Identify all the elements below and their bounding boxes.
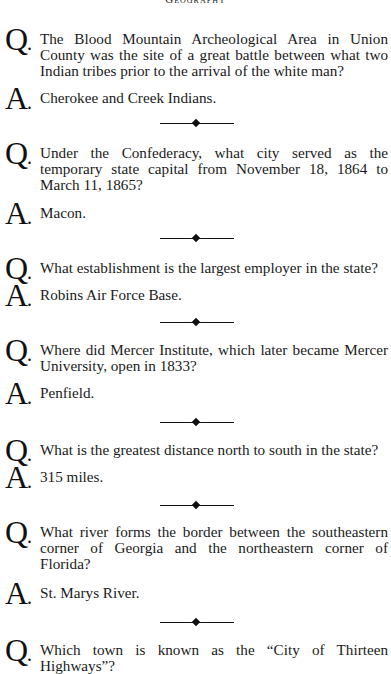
answer-marker: A. — [5, 578, 32, 612]
question-block: Q. Where did Mercer Institute, which lat… — [0, 342, 391, 374]
question-block: Q. The Blood Mountain Archeological Area… — [0, 31, 391, 79]
qa-question-2: Q. Under the Confederacy, what city serv… — [0, 145, 391, 193]
qa-answer-2: A. Macon. — [0, 205, 391, 221]
answer-text: 315 miles. — [40, 469, 388, 485]
qa-question-1: Q. The Blood Mountain Archeological Area… — [0, 31, 391, 79]
answer-block: A. Macon. — [0, 205, 391, 221]
question-block: Q. What is the greatest distance north t… — [0, 442, 391, 458]
diamond-separator — [160, 501, 234, 510]
question-text: What river forms the border between the … — [40, 524, 388, 572]
diamond-icon — [192, 501, 200, 509]
question-marker: Q. — [5, 24, 32, 58]
question-text: What establishment is the largest employ… — [40, 260, 388, 276]
question-marker: Q. — [5, 635, 32, 669]
question-marker: Q. — [5, 517, 32, 551]
answer-marker: A. — [5, 280, 32, 314]
qa-question-5: Q. What is the greatest distance north t… — [0, 442, 391, 458]
answer-text: Cherokee and Creek Indians. — [40, 90, 388, 106]
answer-block: A. Penfield. — [0, 385, 391, 401]
diamond-separator — [160, 418, 234, 427]
diamond-icon — [192, 318, 200, 326]
question-text: Under the Confederacy, what city served … — [40, 145, 388, 193]
running-head: Geography — [0, 0, 391, 5]
question-marker: Q. — [5, 335, 32, 369]
qa-answer-6: A. St. Marys River. — [0, 585, 391, 601]
diamond-icon — [192, 618, 200, 626]
diamond-icon — [192, 418, 200, 426]
qa-answer-3: A. Robins Air Force Base. — [0, 287, 391, 303]
diamond-icon — [192, 234, 200, 242]
question-marker: Q. — [5, 138, 32, 172]
diamond-separator — [160, 318, 234, 327]
diamond-icon — [192, 119, 200, 127]
answer-marker: A. — [5, 198, 32, 232]
question-text: What is the greatest distance north to s… — [40, 442, 388, 458]
answer-block: A. St. Marys River. — [0, 585, 391, 601]
answer-marker: A. — [5, 378, 32, 412]
answer-block: A. 315 miles. — [0, 469, 391, 485]
answer-text: Robins Air Force Base. — [40, 287, 388, 303]
question-text: The Blood Mountain Archeological Area in… — [40, 31, 388, 79]
qa-question-3: Q. What establishment is the largest emp… — [0, 260, 391, 276]
qa-answer-4: A. Penfield. — [0, 385, 391, 401]
diamond-separator — [160, 234, 234, 243]
qa-question-7: Q. Which town is known as the “City of T… — [0, 642, 391, 674]
question-text: Which town is known as the “City of Thir… — [40, 642, 388, 674]
question-block: Q. Under the Confederacy, what city serv… — [0, 145, 391, 193]
diamond-separator — [160, 119, 234, 128]
question-block: Q. Which town is known as the “City of T… — [0, 642, 391, 674]
qa-answer-1: A. Cherokee and Creek Indians. — [0, 90, 391, 106]
answer-text: Penfield. — [40, 385, 388, 401]
answer-block: A. Robins Air Force Base. — [0, 287, 391, 303]
qa-answer-5: A. 315 miles. — [0, 469, 391, 485]
answer-marker: A. — [5, 83, 32, 117]
answer-marker: A. — [5, 462, 32, 496]
qa-question-4: Q. Where did Mercer Institute, which lat… — [0, 342, 391, 374]
diamond-separator — [160, 618, 234, 627]
answer-text: St. Marys River. — [40, 585, 388, 601]
question-text: Where did Mercer Institute, which later … — [40, 342, 388, 374]
answer-text: Macon. — [40, 205, 388, 221]
answer-block: A. Cherokee and Creek Indians. — [0, 90, 391, 106]
qa-question-6: Q. What river forms the border between t… — [0, 524, 391, 572]
question-block: Q. What river forms the border between t… — [0, 524, 391, 572]
question-block: Q. What establishment is the largest emp… — [0, 260, 391, 276]
